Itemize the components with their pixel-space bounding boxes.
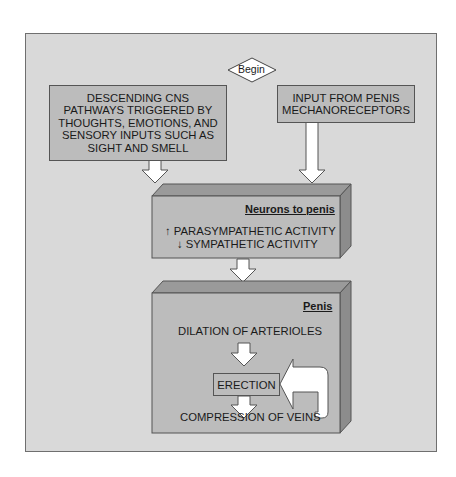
- mechano-line: MECHANORECEPTORS: [282, 104, 410, 117]
- neurons-box-title: Neurons to penis: [245, 203, 335, 215]
- arrow-mechano-to-neurons: [299, 122, 325, 183]
- arrow-up-icon: ↑: [165, 225, 171, 237]
- mechanoreceptor-input-box: INPUT FROM PENIS MECHANORECEPTORS: [277, 85, 415, 123]
- penis-box-side: [340, 281, 351, 433]
- cns-line: THOUGHTS, EMOTIONS, AND: [58, 117, 217, 130]
- penis-box-title: Penis: [303, 300, 332, 312]
- arrow-down-icon: ↓: [177, 238, 183, 250]
- cns-input-box: DESCENDING CNS PATHWAYS TRIGGERED BY THO…: [49, 85, 227, 161]
- arrow-cns-to-neurons: [142, 160, 168, 183]
- arrow-neurons-to-penis: [230, 259, 256, 282]
- dilation-label: DILATION OF ARTERIOLES: [178, 325, 322, 337]
- erection-label: ERECTION: [217, 379, 275, 391]
- parasympathetic-line: ↑ PARASYMPATHETIC ACTIVITY: [165, 225, 336, 237]
- parasympathetic-text: PARASYMPATHETIC ACTIVITY: [174, 225, 336, 237]
- begin-label: Begin: [238, 63, 265, 75]
- sympathetic-text: SYMPATHETIC ACTIVITY: [186, 238, 318, 250]
- compression-label: COMPRESSION OF VEINS: [180, 411, 321, 423]
- neurons-box-side: [340, 184, 351, 258]
- penis-box-top: [152, 281, 351, 293]
- cns-line: SENSORY INPUTS SUCH AS: [58, 129, 217, 142]
- erection-box: ERECTION: [213, 373, 280, 396]
- cns-line: DESCENDING CNS: [58, 92, 217, 105]
- sympathetic-line: ↓ SYMPATHETIC ACTIVITY: [177, 238, 318, 250]
- neurons-box-top: [152, 184, 351, 196]
- cns-line: SIGHT AND SMELL: [58, 142, 217, 155]
- cns-line: PATHWAYS TRIGGERED BY: [58, 104, 217, 117]
- mechano-line: INPUT FROM PENIS: [282, 92, 410, 105]
